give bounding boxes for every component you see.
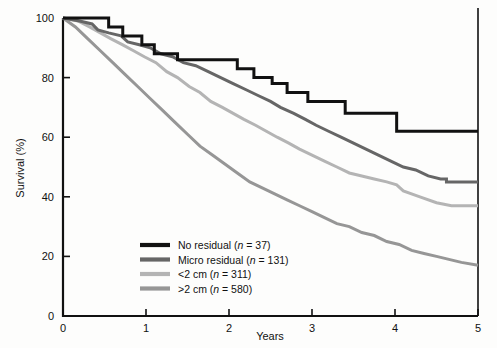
chart-canvas: 020406080100 012345 No residual (n = 37)…	[0, 0, 497, 348]
x-axis-title: Years	[256, 330, 284, 342]
legend-label: <2 cm (n = 311)	[178, 268, 251, 280]
y-axis-tick-label: 60	[42, 131, 54, 143]
y-axis-tick-label: 100	[36, 12, 54, 24]
x-axis-tick-label: 5	[475, 322, 481, 334]
x-axis-tick-label: 2	[226, 322, 232, 334]
legend-label: No residual (n = 37)	[178, 239, 271, 251]
x-axis-tick-label: 4	[392, 322, 398, 334]
x-axis-tick-label: 1	[143, 322, 149, 334]
y-axis-tick-label: 20	[42, 250, 54, 262]
legend-label: Micro residual (n = 131)	[178, 254, 289, 266]
y-axis-title: Survival (%)	[14, 138, 26, 197]
y-axis-tick-label: 80	[42, 72, 54, 84]
x-axis-tick-label: 0	[60, 322, 66, 334]
y-axis-tick-label: 40	[42, 191, 54, 203]
x-axis-tick-label: 3	[309, 322, 315, 334]
y-axis-tick-label: 0	[48, 310, 54, 322]
survival-chart: 020406080100 012345 No residual (n = 37)…	[0, 0, 497, 348]
legend-label: >2 cm (n = 580)	[178, 283, 252, 295]
